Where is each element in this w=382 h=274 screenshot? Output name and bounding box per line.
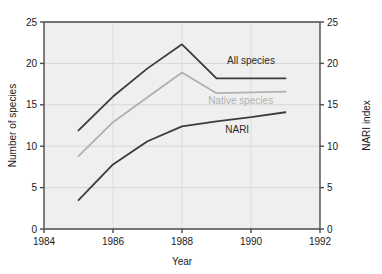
y-tick-label: 0 xyxy=(31,224,37,235)
y-tick-label: 15 xyxy=(26,99,38,110)
secondary-y-tick-label: 20 xyxy=(327,58,339,69)
secondary-y-tick-label: 5 xyxy=(327,182,333,193)
y-tick-label: 10 xyxy=(26,141,38,152)
x-axis-title: Year xyxy=(172,256,193,267)
x-tick-label: 1988 xyxy=(171,236,194,247)
series-label-nari: NARI xyxy=(225,124,249,135)
x-tick-label: 1986 xyxy=(102,236,125,247)
x-tick-label: 1992 xyxy=(309,236,332,247)
secondary-y-tick-label: 25 xyxy=(327,17,339,28)
x-tick-label: 1990 xyxy=(240,236,263,247)
secondary-y-tick-label: 15 xyxy=(327,99,339,110)
series-label-all-species: All species xyxy=(227,55,275,66)
y-tick-label: 5 xyxy=(31,182,37,193)
secondary-y-tick-label: 0 xyxy=(327,224,333,235)
y-tick-label: 25 xyxy=(26,17,38,28)
x-tick-label: 1984 xyxy=(33,236,56,247)
series-label-native-species: Native species xyxy=(208,95,273,106)
secondary-y-axis-title: NARI index xyxy=(361,100,372,151)
chart-figure: 0510152025051015202519841986198819901992… xyxy=(0,0,382,274)
line-chart-svg: 0510152025051015202519841986198819901992… xyxy=(0,0,382,274)
y-axis-title: Number of species xyxy=(7,84,18,167)
y-tick-label: 20 xyxy=(26,58,38,69)
secondary-y-tick-label: 10 xyxy=(327,141,339,152)
